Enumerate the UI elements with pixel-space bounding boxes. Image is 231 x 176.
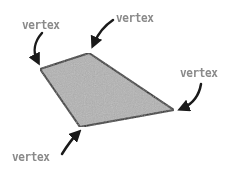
vertex-label-right: vertex bbox=[180, 66, 217, 79]
vertex-label-bottom: vertex bbox=[12, 150, 49, 163]
vertex-label-top-left: vertex bbox=[22, 18, 59, 31]
arrow-icon-right bbox=[183, 84, 201, 108]
arrow-icon-top bbox=[94, 20, 113, 43]
quadrilateral-shape bbox=[40, 53, 174, 127]
arrow-icon-top-left bbox=[35, 33, 42, 60]
arrow-icon-bottom bbox=[62, 134, 77, 154]
vertex-label-top: vertex bbox=[116, 11, 153, 24]
